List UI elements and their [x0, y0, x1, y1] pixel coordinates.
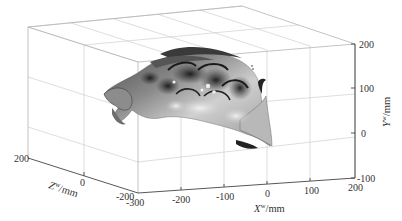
x-tick: 100 — [304, 185, 319, 196]
x-tick: -200 — [172, 194, 190, 205]
z-tick: -200 — [116, 191, 134, 202]
x-tick: 0 — [265, 188, 270, 199]
y-axis-label: Yw/mm — [380, 97, 392, 127]
surface-3d-plot: 200 100 0 -100 Yw/mm -300 -200 -100 0 10… — [0, 0, 402, 221]
x-tick: -100 — [216, 191, 234, 202]
z-axis-label: Zw/mm — [47, 178, 79, 199]
y-tick: 100 — [359, 83, 374, 94]
x-tick: 200 — [348, 182, 363, 193]
y-tick-labels: 200 100 0 -100 — [357, 39, 375, 184]
x-axis-label: Xw/mm — [253, 202, 285, 214]
surface — [104, 47, 272, 149]
svg-text:Yw/mm: Yw/mm — [380, 97, 392, 127]
svg-text:Zw/mm: Zw/mm — [47, 178, 79, 199]
z-tick: 200 — [14, 153, 29, 164]
z-tick: 0 — [80, 177, 85, 188]
y-tick: 200 — [359, 39, 374, 50]
y-tick: 0 — [361, 128, 366, 139]
